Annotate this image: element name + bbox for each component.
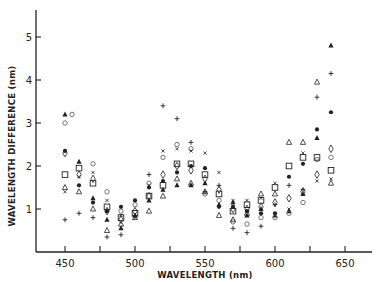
series-filled-triangle <box>62 43 333 231</box>
circle-open-marker <box>259 215 263 219</box>
diamond-open-marker <box>315 171 319 179</box>
x-marker <box>315 179 318 182</box>
triangle-open-marker <box>328 180 333 185</box>
triangle-open-marker <box>174 176 179 181</box>
circle-filled-marker <box>217 205 221 209</box>
circle-open-marker <box>119 209 123 213</box>
triangle-filled-marker <box>174 182 179 187</box>
circle-filled-marker <box>147 185 151 189</box>
circle-open-marker <box>161 155 165 159</box>
triangle-open-marker <box>216 212 221 217</box>
x-marker <box>105 199 108 202</box>
circle-filled-marker <box>287 175 291 179</box>
series-open-square <box>62 155 334 221</box>
triangle-open-marker <box>230 217 235 222</box>
circle-open-marker <box>301 200 305 204</box>
plus-marker <box>189 140 194 145</box>
circle-filled-marker <box>161 179 165 183</box>
plus-marker <box>63 217 68 222</box>
triangle-filled-marker <box>314 135 319 140</box>
triangle-open-marker <box>62 185 67 190</box>
series-open-triangle <box>62 79 333 232</box>
triangle-filled-marker <box>76 159 81 164</box>
triangle-open-marker <box>90 206 95 211</box>
plus-marker <box>329 71 334 76</box>
x-tick-label: 600 <box>265 258 284 269</box>
plus-marker <box>315 95 320 100</box>
circle-open-marker <box>245 222 249 226</box>
plus-marker <box>77 211 82 216</box>
series-open-diamond <box>63 145 333 224</box>
triangle-filled-marker <box>62 111 67 116</box>
plus-marker <box>147 172 152 177</box>
plus-marker <box>91 215 96 220</box>
triangle-open-marker <box>314 79 319 84</box>
circle-filled-marker <box>119 205 123 209</box>
x-marker <box>203 152 206 155</box>
x-tick-label: 450 <box>55 258 74 269</box>
circle-filled-marker <box>175 170 179 174</box>
data-points <box>62 43 334 240</box>
y-axis: 12345 <box>26 10 41 252</box>
y-tick-label: 3 <box>26 118 32 129</box>
diamond-open-marker <box>287 194 291 202</box>
x-marker <box>175 147 178 150</box>
diamond-open-marker <box>161 171 165 179</box>
circle-filled-marker <box>273 211 277 215</box>
triangle-filled-marker <box>104 217 109 222</box>
square-open-marker <box>328 168 334 174</box>
circle-open-marker <box>63 121 67 125</box>
circle-open-marker <box>147 181 151 185</box>
diamond-open-marker <box>175 162 179 170</box>
x-tick-label: 550 <box>195 258 214 269</box>
circle-open-marker <box>91 162 95 166</box>
circle-filled-marker <box>77 183 81 187</box>
circle-filled-marker <box>259 211 263 215</box>
triangle-open-marker <box>286 139 291 144</box>
series-plus <box>63 71 334 239</box>
plus-marker <box>245 230 250 235</box>
diamond-open-marker <box>91 175 95 183</box>
triangle-open-marker <box>300 139 305 144</box>
circle-open-marker <box>133 203 137 207</box>
circle-filled-marker <box>329 110 333 114</box>
circle-open-marker <box>189 147 193 151</box>
plus-marker <box>287 183 292 188</box>
series-open-circle <box>63 112 333 226</box>
x-tick-label: 650 <box>335 258 354 269</box>
triangle-filled-marker <box>328 43 333 48</box>
series-filled-circle <box>63 110 333 215</box>
square-open-marker <box>286 163 292 169</box>
circle-open-marker <box>329 155 333 159</box>
x-marker <box>217 171 220 174</box>
circle-open-marker <box>315 157 319 161</box>
circle-filled-marker <box>91 200 95 204</box>
circle-filled-marker <box>133 198 137 202</box>
triangle-open-marker <box>104 228 109 233</box>
triangle-open-marker <box>146 208 151 213</box>
scatter-chart: 12345 450500550600650 WAVELENGTH DIFFERE… <box>0 0 380 282</box>
plus-marker <box>161 103 166 108</box>
x-axis: 450500550600650 <box>36 246 372 269</box>
x-marker <box>259 197 262 200</box>
plus-marker <box>175 116 180 121</box>
triangle-open-marker <box>76 189 81 194</box>
x-marker <box>161 149 164 152</box>
triangle-open-marker <box>272 191 277 196</box>
square-open-marker <box>62 172 68 178</box>
circle-open-marker <box>70 112 74 116</box>
triangle-open-marker <box>258 191 263 196</box>
circle-filled-marker <box>203 166 207 170</box>
plus-marker <box>105 235 110 240</box>
triangle-filled-marker <box>160 187 165 192</box>
x-axis-title: WAVELENGTH (nm) <box>157 270 253 280</box>
y-tick-label: 1 <box>26 204 32 215</box>
circle-open-marker <box>105 190 109 194</box>
triangle-filled-marker <box>90 195 95 200</box>
y-tick-label: 2 <box>26 161 32 172</box>
square-open-marker <box>300 155 306 161</box>
x-marker <box>63 190 66 193</box>
circle-filled-marker <box>315 127 319 131</box>
plus-marker <box>231 226 236 231</box>
x-marker <box>91 171 94 174</box>
